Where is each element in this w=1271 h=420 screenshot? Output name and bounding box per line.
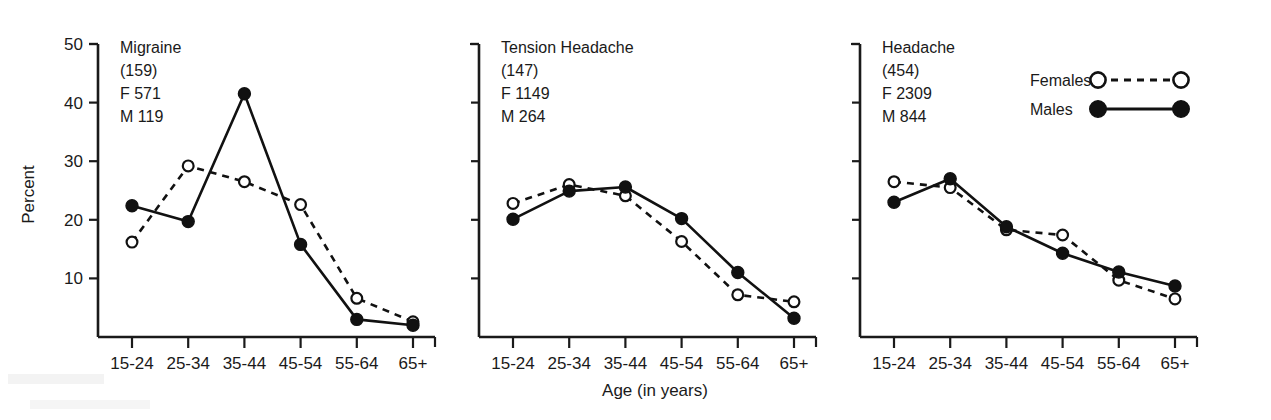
legend-marker-filled-circle xyxy=(1173,101,1189,117)
x-axis-tick-label: 35-44 xyxy=(604,354,647,373)
panel-label-line: M 119 xyxy=(120,108,163,125)
panel-label-line: F 571 xyxy=(120,85,161,102)
x-axis-tick-label: 35-44 xyxy=(985,354,1028,373)
data-point-females xyxy=(1057,230,1068,241)
legend-label-females: Females xyxy=(1030,72,1091,89)
data-point-females xyxy=(676,236,687,247)
panel-label-line: F 2309 xyxy=(882,85,932,102)
data-point-males xyxy=(944,173,956,185)
legend-marker-open-circle xyxy=(1090,72,1105,87)
line-chart-svg: 1020304050Percent15-2425-3435-4445-5455-… xyxy=(0,0,1271,420)
legend: FemalesMales xyxy=(1030,72,1189,118)
panel-label-line: (147) xyxy=(501,62,538,79)
data-point-males xyxy=(1000,221,1012,233)
x-axis-tick-label: 45-54 xyxy=(279,354,322,373)
y-axis-tick-label: 40 xyxy=(64,94,83,113)
panel-label-line: Headache xyxy=(882,39,955,56)
data-point-males xyxy=(407,319,419,331)
x-axis-tick-label: 15-24 xyxy=(491,354,534,373)
x-axis-tick-label: 65+ xyxy=(780,354,809,373)
data-point-females xyxy=(732,289,743,300)
data-point-females xyxy=(508,198,519,209)
scan-artifact xyxy=(8,374,104,384)
data-point-males xyxy=(1057,247,1069,259)
x-axis-tick-label: 35-44 xyxy=(223,354,266,373)
panel-migraine: 15-2425-3435-4445-5455-6465+Migraine(159… xyxy=(89,39,435,373)
data-point-males xyxy=(238,88,250,100)
panel-tension-headache: 15-2425-3435-4445-5455-6465+Tension Head… xyxy=(470,39,816,373)
y-axis-tick-label: 50 xyxy=(64,35,83,54)
data-point-males xyxy=(1169,280,1181,292)
x-axis-tick-label: 65+ xyxy=(399,354,428,373)
chart-figure: 1020304050Percent15-2425-3435-4445-5455-… xyxy=(0,0,1271,420)
data-point-males xyxy=(295,238,307,250)
y-axis-tick-label: 20 xyxy=(64,211,83,230)
legend-marker-open-circle xyxy=(1173,72,1188,87)
legend-label-males: Males xyxy=(1030,101,1073,118)
x-axis-tick-label: 25-34 xyxy=(547,354,590,373)
y-axis-tick-label: 10 xyxy=(64,269,83,288)
x-axis-tick-label: 25-34 xyxy=(166,354,209,373)
series-line-males xyxy=(513,187,794,318)
x-axis-tick-label: 45-54 xyxy=(660,354,703,373)
data-point-males xyxy=(182,216,194,228)
data-point-females xyxy=(1170,294,1181,305)
x-axis-tick-label: 45-54 xyxy=(1041,354,1084,373)
panel-label-line: M 264 xyxy=(501,108,546,125)
x-axis-tick-label: 55-64 xyxy=(335,354,378,373)
panel-label-line: Migraine xyxy=(120,39,181,56)
data-point-females xyxy=(789,296,800,307)
data-point-males xyxy=(888,196,900,208)
y-axis: 1020304050Percent xyxy=(19,35,98,337)
data-point-males xyxy=(351,313,363,325)
x-axis-tick-label: 15-24 xyxy=(872,354,915,373)
data-point-females xyxy=(295,199,306,210)
x-axis-tick-label: 55-64 xyxy=(1097,354,1140,373)
panel-label-line: (159) xyxy=(120,62,157,79)
panel-label-line: Tension Headache xyxy=(501,39,634,56)
data-point-females xyxy=(127,237,138,248)
series-line-females xyxy=(132,166,413,322)
data-point-males xyxy=(676,213,688,225)
data-point-females xyxy=(889,176,900,187)
data-point-males xyxy=(1113,266,1125,278)
y-axis-title: Percent xyxy=(19,165,38,224)
data-point-females xyxy=(351,293,362,304)
panel-label-line: M 844 xyxy=(882,108,927,125)
x-axis-tick-label: 25-34 xyxy=(928,354,971,373)
data-point-males xyxy=(563,185,575,197)
legend-marker-filled-circle xyxy=(1090,101,1106,117)
data-point-females xyxy=(183,161,194,172)
x-axis-tick-label: 65+ xyxy=(1161,354,1190,373)
x-axis-tick-label: 15-24 xyxy=(110,354,153,373)
data-point-males xyxy=(788,312,800,324)
panel-label-line: (454) xyxy=(882,62,919,79)
data-point-males xyxy=(619,181,631,193)
y-axis-tick-label: 30 xyxy=(64,152,83,171)
x-axis-tick-label: 55-64 xyxy=(716,354,759,373)
panel-headache: 15-2425-3435-4445-5455-6465+Headache(454… xyxy=(851,39,1197,373)
series-line-males xyxy=(132,94,413,325)
data-point-males xyxy=(507,213,519,225)
scan-artifact xyxy=(30,400,150,409)
panel-label-line: F 1149 xyxy=(501,85,550,102)
data-point-females xyxy=(239,176,250,187)
series-line-males xyxy=(894,179,1175,286)
data-point-males xyxy=(732,267,744,279)
x-axis-title: Age (in years) xyxy=(602,381,708,400)
data-point-males xyxy=(126,200,138,212)
